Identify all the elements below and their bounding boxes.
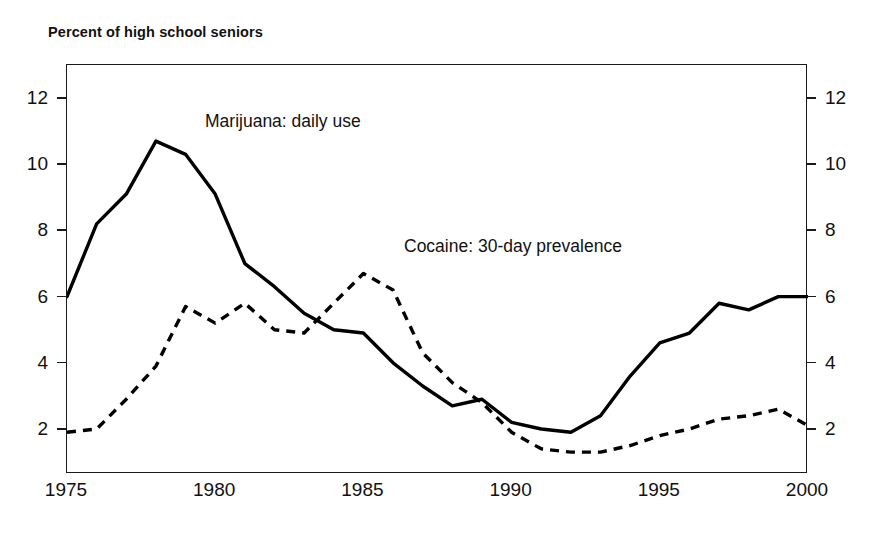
x-axis-tick-label: 1995 [638, 480, 680, 499]
y-axis-right-tick-label: 4 [825, 352, 836, 371]
plot-area [66, 64, 807, 473]
y-axis-left-tick-label: 10 [14, 154, 48, 173]
y-axis-left-tick-label: 2 [14, 418, 48, 437]
y-axis-left-tick-mark [57, 296, 66, 298]
y-axis-right-tick-mark [807, 362, 816, 364]
chart-figure: Percent of high school seniors 24681012 … [0, 0, 871, 533]
y-axis-right-tick-mark [807, 229, 816, 231]
plot-svg [67, 65, 808, 474]
y-axis-left-tick-label: 6 [14, 286, 48, 305]
y-axis-left-tick-mark [57, 362, 66, 364]
x-axis-tick-label: 1985 [341, 480, 383, 499]
series-annotation-cocaine: Cocaine: 30-day prevalence [404, 238, 622, 256]
y-axis-left-tick-label: 12 [14, 88, 48, 107]
y-axis-right-tick-mark [807, 428, 816, 430]
x-axis-tick-label: 1990 [489, 480, 531, 499]
y-axis-right-tick-mark [807, 163, 816, 165]
series-line-marijuana [67, 141, 808, 432]
y-axis-right-tick-mark [807, 296, 816, 298]
y-axis-left-tick-mark [57, 163, 66, 165]
y-axis-left-tick-label: 8 [14, 220, 48, 239]
y-axis-right-tick-label: 12 [825, 88, 846, 107]
y-axis-right-tick-label: 2 [825, 418, 836, 437]
x-axis-tick-label: 2000 [786, 480, 828, 499]
y-axis-left-tick-mark [57, 97, 66, 99]
y-axis-right-tick-label: 6 [825, 286, 836, 305]
series-annotation-marijuana: Marijuana: daily use [205, 113, 361, 131]
series-line-cocaine [67, 273, 808, 452]
y-axis-left-tick-mark [57, 229, 66, 231]
chart-title: Percent of high school seniors [48, 24, 263, 40]
y-axis-right-tick-mark [807, 97, 816, 99]
x-axis-tick-label: 1980 [193, 480, 235, 499]
x-axis-tick-label: 1975 [45, 480, 87, 499]
y-axis-left-tick-mark [57, 428, 66, 430]
y-axis-right-tick-label: 8 [825, 220, 836, 239]
y-axis-left-tick-label: 4 [14, 352, 48, 371]
y-axis-right-tick-label: 10 [825, 154, 846, 173]
